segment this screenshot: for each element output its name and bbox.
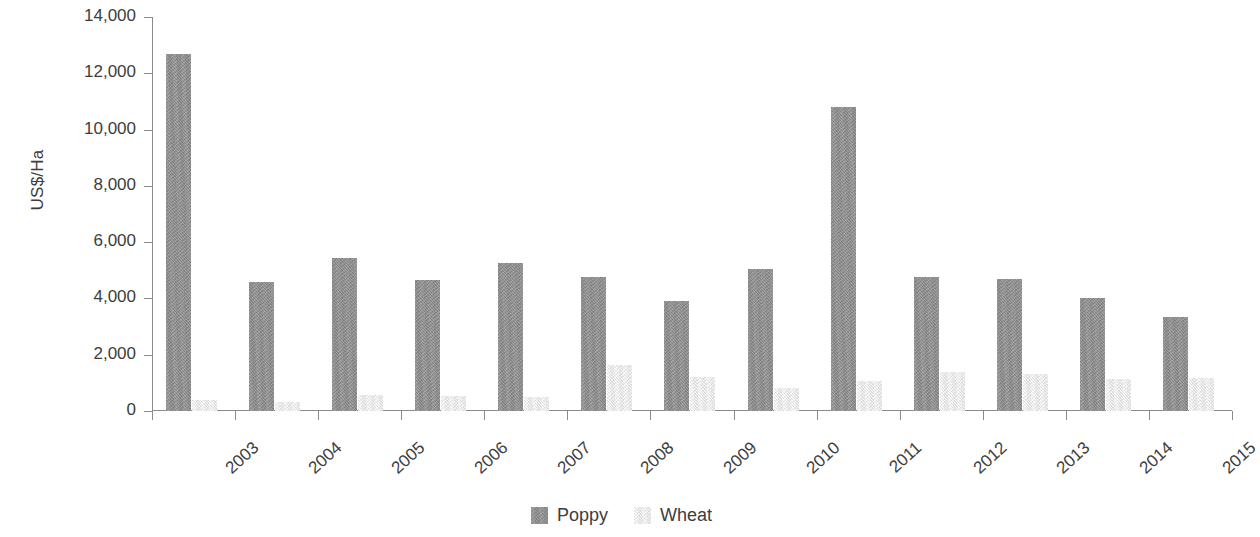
y-axis-tick-label: 6,000 xyxy=(93,231,136,251)
x-axis-label-2010: 2010 xyxy=(803,438,844,478)
y-axis-tick: 10,000 xyxy=(144,130,152,131)
bar-poppy-2009[interactable] xyxy=(664,301,689,411)
x-axis-tick xyxy=(1232,411,1233,420)
bar-poppy-2012[interactable] xyxy=(914,277,939,411)
x-axis-tick xyxy=(734,411,735,420)
y-axis-tick: 4,000 xyxy=(144,298,152,299)
x-axis-tick xyxy=(401,411,402,420)
x-axis-label-2011: 2011 xyxy=(886,438,927,477)
x-axis-tick xyxy=(650,411,651,420)
bar-group xyxy=(567,17,650,411)
bar-wheat-2010[interactable] xyxy=(774,388,799,411)
bar-wheat-2011[interactable] xyxy=(857,381,882,411)
bar-wheat-2009[interactable] xyxy=(690,377,715,411)
legend-item-wheat[interactable]: Wheat xyxy=(634,505,712,526)
x-axis-tick xyxy=(817,411,818,420)
y-axis-tick-label: 14,000 xyxy=(84,6,136,26)
bar-poppy-2008[interactable] xyxy=(581,277,606,411)
bar-poppy-2014[interactable] xyxy=(1080,298,1105,411)
x-axis-tick xyxy=(983,411,984,420)
bar-wheat-2012[interactable] xyxy=(940,372,965,411)
x-axis-tick xyxy=(567,411,568,420)
bar-group xyxy=(152,17,235,411)
x-axis-tick xyxy=(1149,411,1150,420)
x-axis-tick xyxy=(318,411,319,420)
y-axis-tick: 12,000 xyxy=(144,73,152,74)
bar-wheat-2013[interactable] xyxy=(1023,374,1048,411)
legend-label-poppy: Poppy xyxy=(557,505,608,526)
x-axis-label-2007: 2007 xyxy=(554,438,595,478)
x-axis-label-2003: 2003 xyxy=(222,438,263,478)
x-axis-label-2009: 2009 xyxy=(720,438,761,478)
bar-poppy-2005[interactable] xyxy=(332,258,357,411)
legend-label-wheat: Wheat xyxy=(660,505,712,526)
x-axis-label-2013: 2013 xyxy=(1052,438,1093,478)
bar-group xyxy=(235,17,318,411)
y-axis-tick-label: 10,000 xyxy=(84,119,136,139)
legend-item-poppy[interactable]: Poppy xyxy=(531,505,608,526)
x-axis-label-2008: 2008 xyxy=(637,438,678,478)
x-axis-label-2005: 2005 xyxy=(388,438,429,478)
plot-area: 14,00012,00010,0008,0006,0004,0002,0000 … xyxy=(152,17,1232,411)
y-axis-tick-label: 4,000 xyxy=(93,287,136,307)
y-axis-tick-label: 8,000 xyxy=(93,175,136,195)
bar-poppy-2015[interactable] xyxy=(1163,317,1188,411)
bar-wheat-2005[interactable] xyxy=(358,395,383,411)
x-axis-label-2004: 2004 xyxy=(305,438,346,478)
chart-legend: PoppyWheat xyxy=(0,505,1243,526)
y-axis-tick-label: 0 xyxy=(127,400,136,420)
x-axis-tick xyxy=(152,411,153,420)
x-axis-label-2015: 2015 xyxy=(1218,438,1259,478)
bar-group xyxy=(650,17,733,411)
bar-wheat-2014[interactable] xyxy=(1106,379,1131,411)
x-axis-tick xyxy=(484,411,485,420)
bar-wheat-2006[interactable] xyxy=(441,396,466,411)
bar-group xyxy=(1149,17,1232,411)
y-axis-tick-label: 2,000 xyxy=(93,344,136,364)
y-axis-tick: 6,000 xyxy=(144,242,152,243)
bar-poppy-2003[interactable] xyxy=(166,54,191,411)
bar-poppy-2004[interactable] xyxy=(249,282,274,411)
x-axis-tick xyxy=(1066,411,1067,420)
x-axis-tick xyxy=(235,411,236,420)
bar-group xyxy=(1066,17,1149,411)
y-axis-tick-label: 12,000 xyxy=(84,62,136,82)
bar-group xyxy=(734,17,817,411)
bar-group xyxy=(983,17,1066,411)
x-axis-label-2006: 2006 xyxy=(471,438,512,478)
y-axis-tick: 2,000 xyxy=(144,355,152,356)
y-axis-tick: 14,000 xyxy=(144,17,152,18)
bar-group xyxy=(900,17,983,411)
bar-wheat-2008[interactable] xyxy=(607,365,632,411)
bar-group xyxy=(401,17,484,411)
bar-wheat-2003[interactable] xyxy=(192,400,217,411)
bar-group xyxy=(318,17,401,411)
y-axis-title: US$/Ha xyxy=(28,120,48,240)
x-axis-tick xyxy=(900,411,901,420)
bar-group xyxy=(484,17,567,411)
bar-wheat-2004[interactable] xyxy=(275,402,300,411)
bar-poppy-2006[interactable] xyxy=(415,280,440,411)
bar-wheat-2007[interactable] xyxy=(524,397,549,411)
y-axis-tick: 8,000 xyxy=(144,186,152,187)
legend-swatch-poppy xyxy=(531,507,548,524)
x-axis-label-2012: 2012 xyxy=(969,438,1010,478)
bar-poppy-2007[interactable] xyxy=(498,263,523,411)
x-axis-label-2014: 2014 xyxy=(1135,438,1176,478)
bar-poppy-2010[interactable] xyxy=(748,269,773,411)
bar-poppy-2013[interactable] xyxy=(997,279,1022,411)
y-axis-tick: 0 xyxy=(144,411,152,412)
legend-swatch-wheat xyxy=(634,507,651,524)
bar-group xyxy=(817,17,900,411)
bar-wheat-2015[interactable] xyxy=(1189,378,1214,411)
bar-poppy-2011[interactable] xyxy=(831,107,856,411)
